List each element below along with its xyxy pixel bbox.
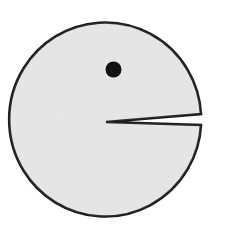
eye-icon xyxy=(106,62,122,78)
pacman-figure xyxy=(0,0,228,225)
pacman-body-texture xyxy=(9,23,201,217)
figure-canvas xyxy=(0,0,228,225)
